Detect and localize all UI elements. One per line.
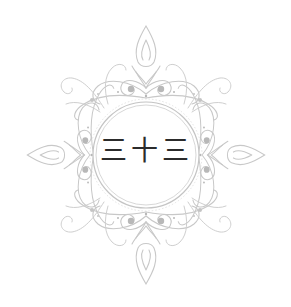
emblem-text: 三十三 [96,131,196,171]
ornamental-emblem: 三十三 [0,0,291,307]
